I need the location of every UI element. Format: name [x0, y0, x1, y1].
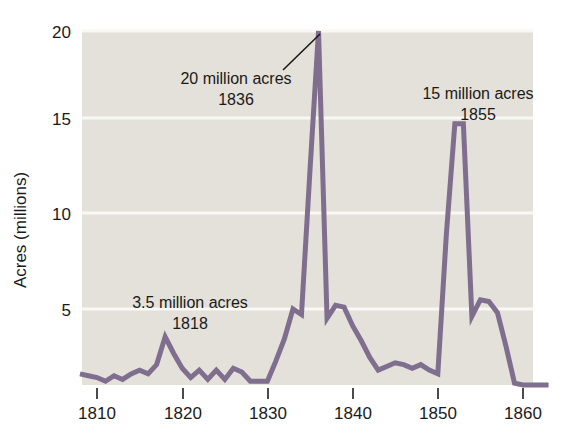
x-axis-ticks: [97, 388, 523, 399]
y-tick-label-10: 10: [52, 205, 71, 224]
x-tick-label-1820: 1820: [164, 404, 202, 423]
chart-page: 20 15 10 5 Acres (millions) 1810 1820 18…: [0, 0, 566, 444]
x-tick-label-1840: 1840: [334, 404, 372, 423]
y-axis-tick-labels: 20 15 10 5: [52, 23, 71, 320]
annotation-1836-line1: 20 million acres: [180, 70, 291, 87]
y-axis-title: Acres (millions): [11, 172, 30, 288]
land-sales-line-chart: 20 15 10 5 Acres (millions) 1810 1820 18…: [0, 0, 566, 444]
y-tick-label-20: 20: [52, 23, 71, 42]
x-axis-tick-labels: 1810 1820 1830 1840 1850 1860: [78, 404, 542, 423]
x-tick-label-1810: 1810: [78, 404, 116, 423]
y-tick-label-5: 5: [62, 301, 71, 320]
annotation-1855-line1: 15 million acres: [422, 85, 533, 102]
annotation-1818-line2: 1818: [172, 315, 208, 332]
x-tick-label-1830: 1830: [249, 404, 287, 423]
annotation-1836-line2: 1836: [218, 91, 254, 108]
y-tick-label-15: 15: [52, 110, 71, 129]
annotation-1855-line2: 1855: [460, 106, 496, 123]
x-tick-label-1850: 1850: [419, 404, 457, 423]
annotation-1818-line1: 3.5 million acres: [132, 294, 248, 311]
x-tick-label-1860: 1860: [504, 404, 542, 423]
